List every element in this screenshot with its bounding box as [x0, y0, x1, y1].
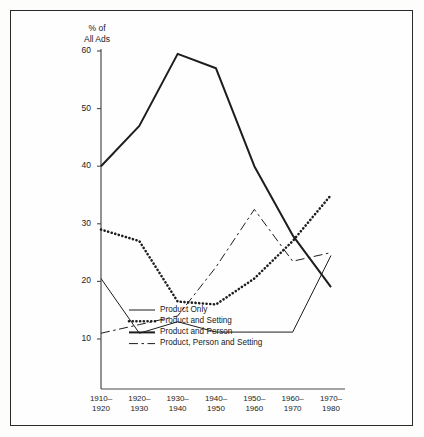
y-tick-label: 30 — [69, 218, 91, 228]
y-tick-label: 10 — [69, 333, 91, 343]
legend-label: Product, Person and Setting — [160, 338, 262, 347]
x-tick-label: 1970– 1980 — [309, 394, 353, 414]
y-tick-label: 20 — [69, 275, 91, 285]
y-tick-label: 60 — [69, 45, 91, 55]
legend-label: Product and Setting — [160, 316, 232, 325]
chart-frame: % of All Ads 1020304050601910– 19201920–… — [10, 10, 413, 426]
legend-label: Product Only — [160, 305, 207, 314]
figure-container: % of All Ads 1020304050601910– 19201920–… — [0, 0, 424, 437]
series-line — [101, 209, 331, 333]
y-tick-label: 50 — [69, 103, 91, 113]
legend-label: Product and Person — [160, 327, 232, 336]
series-line — [101, 195, 331, 304]
y-tick-label: 40 — [69, 160, 91, 170]
series-line — [101, 54, 331, 287]
